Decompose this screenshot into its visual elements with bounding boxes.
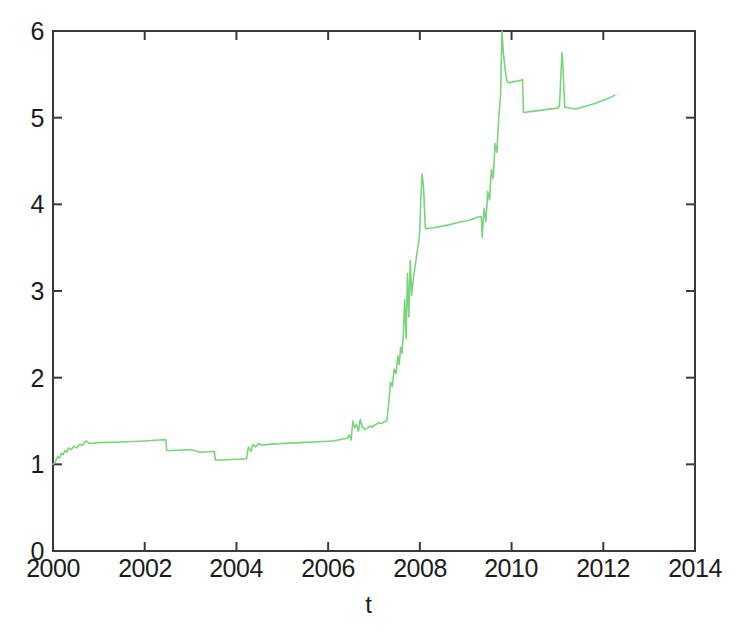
y-tick-label-5: 5 — [4, 106, 44, 131]
series-line-t — [53, 31, 615, 464]
y-tick-label-2: 2 — [4, 366, 44, 391]
x-axis-title: t — [0, 591, 737, 619]
line-chart-plot — [0, 0, 737, 635]
y-tick-label-4: 4 — [4, 192, 44, 217]
data-series-group — [53, 31, 615, 464]
x-axis-ticks — [53, 31, 695, 551]
y-tick-label-6: 6 — [4, 19, 44, 44]
y-tick-label-3: 3 — [4, 279, 44, 304]
y-tick-label-1: 1 — [4, 452, 44, 477]
y-axis-ticks — [53, 31, 695, 551]
x-tick-label-2014: 2014 — [640, 556, 737, 581]
plot-frame — [53, 31, 695, 551]
chart-figure: 6 5 4 3 2 1 0 2000 2002 2004 2006 2008 2… — [0, 0, 737, 635]
